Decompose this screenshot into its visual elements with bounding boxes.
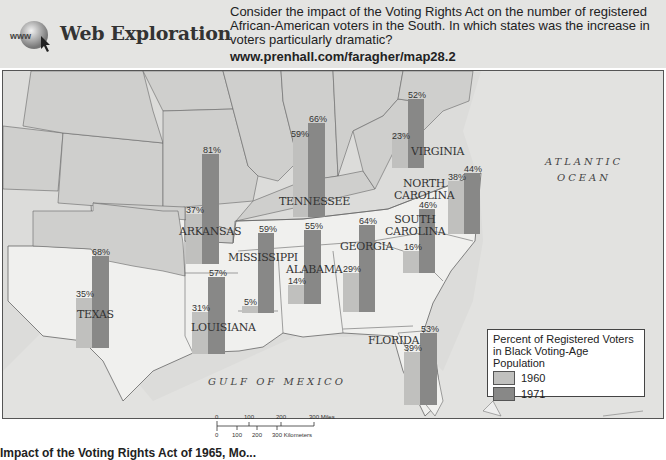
pct-arkansas-1960: 37%	[186, 205, 204, 215]
scale-km-0: 0	[215, 432, 218, 438]
bar-florida-1971	[420, 333, 437, 405]
gulf-of-mexico-label: GULF OF MEXICO	[208, 374, 346, 390]
bar-georgia-1971	[359, 225, 375, 312]
scale-miles-100: 100	[244, 414, 254, 420]
map-legend: Percent of Registered Voters in Black Vo…	[487, 329, 645, 397]
pct-virginia-1971: 52%	[408, 90, 426, 100]
scale-km-300: 300 Kilometers	[272, 432, 312, 438]
pct-georgia-1960: 29%	[343, 264, 361, 274]
pct-tennessee-1960: 59%	[291, 129, 309, 139]
atlantic-label-line1: ATLANTIC	[539, 154, 629, 170]
bar-mississippi-1960	[242, 306, 258, 313]
scale-km-100: 100	[232, 432, 242, 438]
pct-south-carolina-1960: 16%	[404, 242, 422, 252]
web-exploration-header: www Web Exploration Consider the impact …	[0, 0, 666, 68]
state-label-louisiana: LOUISIANA	[191, 322, 256, 334]
state-label-mississippi: MISSISSIPPI	[228, 252, 298, 264]
bar-georgia-1960	[343, 273, 359, 312]
pct-louisiana-1960: 31%	[192, 303, 210, 313]
state-label-arkansas: ARKANSAS	[179, 226, 241, 238]
pct-tennessee-1971: 66%	[309, 114, 327, 124]
state-label-tennessee: TENNESSEE	[279, 196, 350, 208]
pct-alabama-1971: 55%	[305, 221, 323, 231]
svg-text:www: www	[9, 31, 32, 41]
brand-suffix: Exploration	[111, 22, 232, 44]
legend-label-1971: 1971	[521, 388, 545, 400]
bar-arkansas-1960	[186, 214, 202, 264]
pct-alabama-1960: 14%	[288, 276, 306, 286]
scale-miles-0: 0	[215, 414, 218, 420]
pct-mississippi-1971: 59%	[259, 224, 277, 234]
pct-georgia-1971: 64%	[359, 216, 377, 226]
exploration-url-link[interactable]: www.prenhall.com/faragher/map28.2	[230, 49, 456, 64]
state-label-north-carolina: NORTH CAROLINA	[394, 178, 454, 202]
legend-swatch-1971	[493, 387, 515, 401]
legend-item-1960: 1960	[493, 371, 639, 385]
pct-north-carolina-1971: 44%	[464, 164, 482, 174]
scale-miles-300: 300 Miles	[309, 414, 335, 420]
pct-texas-1960: 35%	[76, 289, 94, 299]
bar-louisiana-1971	[208, 277, 225, 354]
exploration-question: Consider the impact of the Voting Rights…	[230, 5, 660, 47]
bar-texas-1971	[92, 256, 109, 348]
pct-south-carolina-1971: 46%	[419, 200, 437, 210]
state-label-south-carolina: SOUTH CAROLINA	[385, 214, 445, 238]
legend-item-1971: 1971	[493, 387, 639, 401]
map-caption: Impact of the Voting Rights Act of 1965,…	[0, 446, 256, 460]
state-label-virginia: VIRGINIA	[411, 146, 464, 158]
pct-mississippi-1960: 5%	[244, 297, 257, 307]
bar-florida-1960	[404, 352, 420, 405]
pct-virginia-1960: 23%	[392, 131, 410, 141]
www-globe-cursor-icon: www	[8, 18, 56, 54]
state-label-florida: FLORIDA	[368, 335, 419, 347]
bar-alabama-1960	[288, 285, 304, 304]
atlantic-label-line2: OCEAN	[539, 170, 629, 186]
state-label-georgia: GEORGIA	[340, 241, 393, 253]
pct-texas-1971: 68%	[92, 247, 110, 257]
bar-south-carolina-1960	[403, 251, 419, 273]
scale-miles-200: 200	[276, 414, 286, 420]
pct-florida-1971: 53%	[421, 324, 439, 334]
web-exploration-title: Web Exploration	[60, 22, 231, 44]
bar-texas-1960	[76, 298, 92, 348]
legend-title: Percent of Registered Voters in Black Vo…	[493, 333, 639, 369]
state-label-texas: TEXAS	[77, 309, 114, 321]
bar-arkansas-1971	[202, 154, 219, 264]
brand-prefix: Web	[60, 22, 104, 44]
legend-swatch-1960	[493, 371, 515, 385]
pct-arkansas-1971: 81%	[203, 145, 221, 155]
southern-states-map: 35% 68% TEXAS 37% 81% ARKANSAS 59% 66% T…	[2, 70, 664, 419]
pct-louisiana-1971: 57%	[209, 268, 227, 278]
map-scale-bar: 0 100 200 300 Miles 0 100 200 300 Kilome…	[214, 413, 334, 443]
bar-mississippi-1971	[258, 233, 274, 313]
atlantic-ocean-label: ATLANTIC OCEAN	[539, 154, 629, 186]
bar-north-carolina-1971	[464, 173, 480, 234]
state-label-alabama: ALABAMA	[286, 264, 342, 276]
scale-km-200: 200	[252, 432, 262, 438]
legend-label-1960: 1960	[521, 372, 545, 384]
